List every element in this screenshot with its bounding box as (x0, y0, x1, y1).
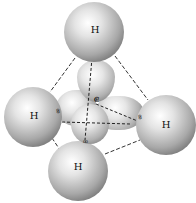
hydrogen-label-right: H (158, 120, 174, 130)
hydrogen-label-top: H (87, 25, 103, 35)
electron-pair-left: oo (55, 108, 61, 113)
electron-pair-bottom: oo (83, 139, 87, 144)
electron-pair-right: oo (137, 114, 143, 119)
methane-diagram: H C H H H oo oo oo oo (0, 0, 196, 203)
hydrogen-label-left: H (26, 111, 42, 121)
